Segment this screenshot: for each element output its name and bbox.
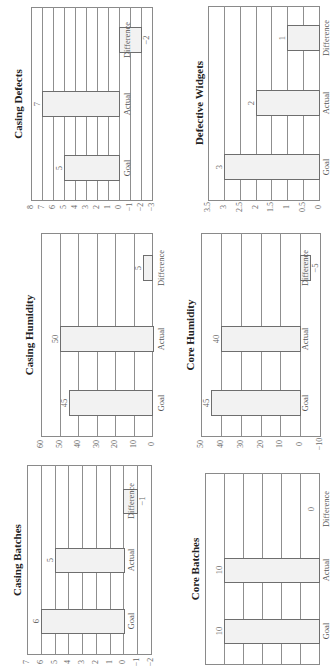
gridline xyxy=(108,7,109,200)
gridline xyxy=(240,6,241,200)
axis-tick-label: 7 xyxy=(23,660,31,664)
axis-tick-label: −1 xyxy=(133,658,141,667)
category-label: Goal xyxy=(322,159,331,176)
axis-tick-label: −1 xyxy=(126,203,134,212)
value-label: 5 xyxy=(45,558,54,562)
axis-tick-label: 2 xyxy=(93,205,101,209)
axis-tick-label: −3 xyxy=(148,203,156,212)
bar-actual xyxy=(224,558,320,583)
bar-actual xyxy=(221,326,301,352)
value-label: 3 xyxy=(215,165,224,169)
category-label: Difference xyxy=(123,22,132,58)
bar-actual xyxy=(60,326,154,352)
gridline xyxy=(281,473,282,664)
gridline xyxy=(97,233,98,436)
axis-tick-label: 0 xyxy=(296,442,304,446)
bar-actual xyxy=(55,548,125,573)
gridline xyxy=(55,465,56,654)
value-label: 45 xyxy=(202,399,211,408)
axis-tick-label: 0.5 xyxy=(299,202,307,212)
chart-defective-widgets: Defective Widgets3.532.521.510.503Goal2A… xyxy=(0,0,333,668)
axis-tick-label: 5 xyxy=(51,660,59,664)
chart-title: Core Batches xyxy=(190,537,201,599)
axis-tick-label: 20 xyxy=(257,440,265,448)
axis-tick-label: 2.5 xyxy=(236,202,244,212)
gridline xyxy=(110,465,111,654)
bar-difference xyxy=(287,25,320,51)
axis-tick-label: 3.5 xyxy=(204,202,212,212)
gridline xyxy=(300,473,301,664)
value-label: 10 xyxy=(215,627,224,636)
chart-core-batches: Core Batches12108642010Goal10Actual0Diff… xyxy=(0,0,333,668)
bar-goal xyxy=(41,609,125,634)
value-label: 0 xyxy=(307,507,316,511)
plot-area xyxy=(31,7,153,201)
axis-tick-label: 30 xyxy=(93,440,101,448)
gridline xyxy=(241,233,242,436)
bar-goal xyxy=(211,390,301,416)
gridline xyxy=(41,465,42,654)
value-label: 2 xyxy=(246,101,255,105)
bar-difference xyxy=(123,489,138,514)
gridline xyxy=(287,6,288,200)
category-label: Goal xyxy=(322,623,331,640)
bar-goal xyxy=(69,390,153,416)
value-label: 1 xyxy=(278,36,287,40)
gridline xyxy=(123,465,124,654)
axis-tick-label: 0 xyxy=(115,205,123,209)
gridline xyxy=(68,465,69,654)
axis-tick-label: 0 xyxy=(148,442,156,446)
gridline xyxy=(243,473,244,664)
axis-tick-label: −2 xyxy=(137,203,145,212)
gridline xyxy=(262,473,263,664)
axis-tick-label: 2 xyxy=(92,660,100,664)
category-label: Actual xyxy=(322,559,331,582)
axis-tick-label: 0 xyxy=(315,205,323,209)
gridline xyxy=(75,7,76,200)
plot-area xyxy=(205,473,320,665)
gridline xyxy=(60,233,61,436)
category-label: Actual xyxy=(123,93,132,116)
axis-tick-label: 50 xyxy=(56,440,64,448)
gridline xyxy=(224,6,225,200)
gridline xyxy=(96,465,97,654)
gridline xyxy=(256,6,257,200)
axis-tick-label: 4 xyxy=(71,205,79,209)
chart-core-humidity: Core Humidity50403020100−1045Goal40Actua… xyxy=(0,0,333,668)
value-label: 10 xyxy=(215,566,224,575)
axis-tick-label: 3 xyxy=(220,205,228,209)
gridline xyxy=(134,233,135,436)
plot-area xyxy=(201,233,321,437)
category-label: Goal xyxy=(123,160,132,177)
chart-title: Core Humidity xyxy=(185,299,196,370)
category-label: Actual xyxy=(301,328,310,351)
axis-tick-label: 30 xyxy=(237,440,245,448)
axis-tick-label: 4 xyxy=(64,660,72,664)
chart-title: Casing Humidity xyxy=(24,294,35,374)
chart-casing-defects: Casing Defects876543210−1−2−35Goal7Actua… xyxy=(0,0,333,668)
axis-tick-label: 2 xyxy=(252,205,260,209)
category-label: Difference xyxy=(301,250,310,286)
category-label: Actual xyxy=(322,92,331,115)
gridline xyxy=(78,233,79,436)
axis-tick-label: 50 xyxy=(197,440,205,448)
bar-actual xyxy=(42,91,120,117)
axis-tick-label: 40 xyxy=(217,440,225,448)
gridline xyxy=(53,7,54,200)
bar-difference xyxy=(143,255,153,281)
category-label: Goal xyxy=(301,395,310,412)
category-label: Goal xyxy=(127,613,136,630)
plot-area xyxy=(208,6,320,201)
gridline xyxy=(42,7,43,200)
gridline xyxy=(261,233,262,436)
plot-area xyxy=(41,233,153,437)
category-label: Actual xyxy=(157,328,166,351)
axis-tick-label: 10 xyxy=(130,440,138,448)
value-label: 45 xyxy=(60,399,69,408)
axis-tick-label: 3 xyxy=(78,660,86,664)
axis-tick-label: 1 xyxy=(106,660,114,664)
bar-difference xyxy=(300,255,311,281)
axis-tick-label: −2 xyxy=(147,658,155,667)
bar-goal xyxy=(224,619,320,644)
chart-title: Defective Widgets xyxy=(194,61,205,145)
